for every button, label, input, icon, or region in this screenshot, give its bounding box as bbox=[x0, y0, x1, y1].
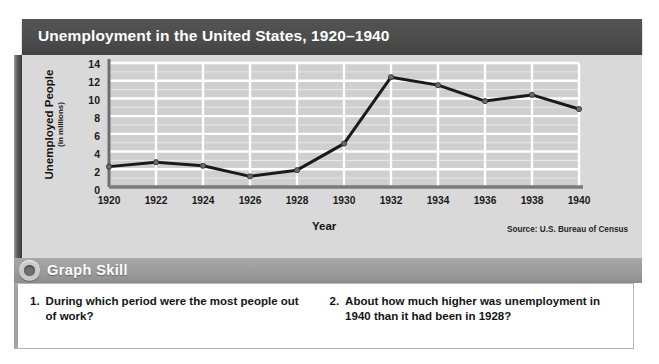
x-tick-1936: 1936 bbox=[474, 195, 497, 206]
source-note: Source: U.S. Bureau of Census bbox=[507, 225, 628, 234]
data-point-1932 bbox=[388, 75, 393, 80]
question-1-text: During which period were the most people… bbox=[46, 294, 312, 324]
data-point-1922 bbox=[153, 160, 158, 165]
x-tick-1920: 1920 bbox=[98, 195, 121, 206]
x-tick-1930: 1930 bbox=[333, 195, 356, 206]
data-point-1934 bbox=[435, 83, 440, 88]
x-tick-1924: 1924 bbox=[192, 195, 215, 206]
y-tick-14: 14 bbox=[76, 59, 100, 69]
figure-title-bar: Unemployment in the United States, 1920–… bbox=[22, 19, 642, 55]
y-axis-tick-labels: 14 12 10 8 6 4 2 0 bbox=[74, 59, 100, 191]
x-tick-1922: 1922 bbox=[145, 195, 168, 206]
x-tick-1940: 1940 bbox=[568, 195, 591, 206]
data-point-1936 bbox=[482, 98, 487, 103]
y-tick-0: 0 bbox=[76, 185, 100, 195]
data-point-1940 bbox=[576, 106, 581, 111]
question-item-2: 2. About how much higher was unemploymen… bbox=[318, 284, 633, 348]
y-axis-title-units: (in millions) bbox=[56, 55, 66, 195]
question-1-number: 1. bbox=[30, 294, 40, 309]
ring-bullet-icon bbox=[19, 260, 40, 281]
question-2-number: 2. bbox=[330, 294, 340, 309]
data-point-1930 bbox=[341, 141, 346, 146]
y-tick-12: 12 bbox=[76, 77, 100, 87]
x-tick-1928: 1928 bbox=[286, 195, 309, 206]
y-tick-8: 8 bbox=[76, 113, 100, 123]
y-axis-title-main: Unemployed People bbox=[43, 55, 56, 195]
x-axis-tick-labels: 1920192219241926192819301932193419361938… bbox=[105, 195, 583, 209]
x-tick-1932: 1932 bbox=[380, 195, 403, 206]
data-point-1920 bbox=[106, 164, 111, 169]
y-tick-4: 4 bbox=[76, 149, 100, 159]
chart-panel: Unemployed People (in millions) 14 12 10… bbox=[14, 55, 642, 258]
x-axis-title: Year bbox=[312, 220, 336, 232]
plot-area bbox=[105, 59, 583, 191]
graph-skill-label: Graph Skill bbox=[47, 262, 128, 278]
x-tick-1926: 1926 bbox=[239, 195, 262, 206]
graph-skill-figure: Unemployment in the United States, 1920–… bbox=[14, 19, 642, 349]
x-tick-1934: 1934 bbox=[427, 195, 450, 206]
chart-inner: Unemployed People (in millions) 14 12 10… bbox=[22, 55, 642, 258]
line-chart-svg bbox=[105, 59, 583, 191]
y-tick-2: 2 bbox=[76, 167, 100, 177]
y-tick-10: 10 bbox=[76, 95, 100, 105]
y-axis-title: Unemployed People (in millions) bbox=[36, 61, 70, 201]
data-point-1928 bbox=[294, 168, 299, 173]
question-2-text: About how much higher was unemployment i… bbox=[345, 294, 627, 324]
questions-box: 1. During which period were the most peo… bbox=[14, 283, 634, 349]
figure-title: Unemployment in the United States, 1920–… bbox=[38, 27, 390, 45]
data-point-1924 bbox=[200, 163, 205, 168]
question-item-1: 1. During which period were the most peo… bbox=[18, 284, 318, 348]
data-point-1926 bbox=[247, 174, 252, 179]
y-tick-6: 6 bbox=[76, 131, 100, 141]
panel-left-edge-decor bbox=[14, 55, 22, 258]
data-point-1938 bbox=[529, 92, 534, 97]
x-tick-1938: 1938 bbox=[521, 195, 544, 206]
graph-skill-band: Graph Skill bbox=[14, 258, 642, 283]
